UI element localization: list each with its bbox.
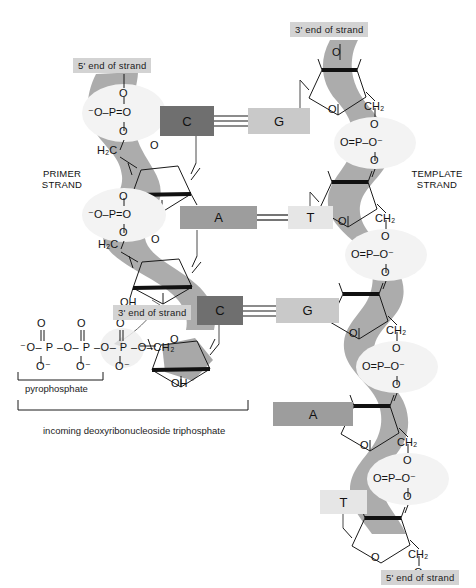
hbonds-pair-2 (257, 215, 288, 220)
template-3prime-end-label: 3' end of strand (290, 22, 368, 37)
base-box-template-t-unpaired[interactable]: T (320, 490, 367, 514)
template-phosphate-2-line: O=P–O⁻ (351, 248, 394, 261)
template-ring-o-low-3: O (349, 327, 358, 339)
template-ring-o-low-2: O (338, 215, 347, 227)
template-ring-o-low-5: O (371, 551, 380, 563)
primer-strand-label-line1: PRIMER (43, 168, 81, 179)
dntp-o-bottom-3: O⁻ (115, 360, 130, 373)
primer-phosphate-2-bottom-o: O (119, 226, 128, 238)
template-phosphate-4-bottom-o: O (403, 490, 412, 502)
template-phosphate-1-bottom-o: O (370, 154, 379, 166)
dntp-chain: ⁻O– P –O– P –O– P –O–CH₂ (20, 341, 175, 354)
incoming-hydroxyl: OH (171, 377, 188, 389)
base-box-primer-c-1[interactable]: C (160, 106, 214, 136)
template-phosphate-2-top-o: O (381, 230, 390, 242)
dntp-o-bottom-1: O⁻ (36, 360, 51, 373)
dntp-o-top-2: O (77, 317, 86, 329)
template-methylene-2: CH₂ (375, 212, 395, 224)
dntp-o-top-1: O (37, 317, 46, 329)
template-phosphate-4-top-o: O (403, 454, 412, 466)
template-phosphate-3-bottom-o: O (392, 378, 401, 390)
template-phosphate-1-top-o: O (370, 118, 379, 130)
template-ring-oxygen-1: O (332, 46, 341, 58)
base-box-template-t[interactable]: T (288, 206, 333, 229)
primer-3prime-end-label: 3' end of strand (113, 305, 191, 320)
primer-phosphate-2-line: ⁻O–P=O (88, 208, 131, 221)
incoming-nucleotide-caption: incoming deoxyribonucleoside triphosphat… (43, 425, 225, 436)
base-box-incoming-c[interactable]: C (197, 296, 243, 325)
dntp-o-bottom-2: O⁻ (76, 360, 91, 373)
template-ring-o-low-1: O (328, 103, 337, 115)
template-strand-label-line2: STRAND (417, 179, 457, 190)
template-5prime-end-label: 5' end of strand (381, 570, 459, 585)
template-phosphate-3-line: O=P–O⁻ (362, 360, 405, 373)
primer-5prime-end-label: 5' end of strand (73, 58, 151, 73)
template-methylene-4: CH₂ (397, 436, 417, 448)
template-phosphate-3-top-o: O (392, 342, 401, 354)
template-strand-label-line1: TEMPLATE (411, 168, 462, 179)
dna-replication-diagram: .bb{fill:#a8a8a8;} .circ{fill:#f3f3f3;} … (0, 0, 476, 588)
template-ring-o-low-4: O (360, 439, 369, 451)
base-box-primer-a[interactable]: A (180, 206, 257, 229)
primer-phosphate-1-top-o: O (119, 87, 128, 99)
template-strand-label: TEMPLATE STRAND (400, 168, 474, 190)
base-box-template-a-unpaired[interactable]: A (273, 402, 353, 426)
primer-ring-oxygen-1: O (150, 139, 159, 151)
template-phosphate-2-bottom-o: O (381, 266, 390, 278)
hbonds-pair-3 (243, 306, 276, 316)
primer-methylene-2: H₂C (98, 238, 118, 250)
pyrophosphate-label: pyrophosphate (25, 383, 88, 394)
primer-strand-label: PRIMER STRAND (27, 168, 97, 190)
primer-ring-oxygen-2: O (151, 233, 160, 245)
template-phosphate-4-line: O=P–O⁻ (373, 472, 416, 485)
primer-phosphate-1-bottom-o: O (119, 125, 128, 137)
incoming-ring-oxygen: O (170, 333, 179, 345)
hbonds-pair-1 (214, 116, 248, 126)
base-box-template-g-1[interactable]: G (248, 108, 310, 134)
template-methylene-3: CH₂ (386, 324, 406, 336)
template-methylene-1: CH₂ (364, 100, 384, 112)
primer-methylene-1: H₂C (97, 144, 117, 156)
template-methylene-5: CH₂ (408, 548, 428, 560)
primer-strand-label-line2: STRAND (42, 179, 82, 190)
template-phosphate-1-line: O=P–O⁻ (340, 136, 383, 149)
base-box-template-g-2[interactable]: G (276, 298, 339, 323)
primer-phosphate-1-line: ⁻O–P=O (88, 106, 131, 119)
primer-phosphate-2-top-o: O (119, 190, 128, 202)
